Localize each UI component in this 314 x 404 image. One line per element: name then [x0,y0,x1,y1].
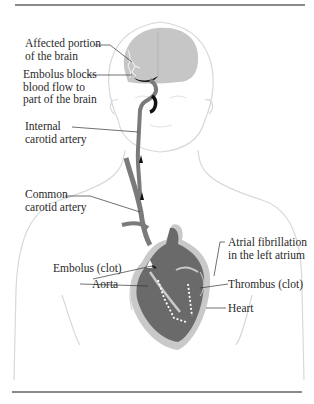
label-atrial-fibrillation: Atrial fibrillation in the left atrium [228,236,307,261]
label-embolus-blocks: Embolus blocks blood flow to part of the… [23,68,97,106]
label-thrombus: Thrombus (clot) [228,278,303,291]
label-internal-carotid: Internal carotid artery [25,120,87,145]
label-embolus-clot: Embolus (clot) [53,262,122,275]
heart [130,224,210,350]
label-affected-brain: Affected portion of the brain [25,37,101,62]
label-aorta: Aorta [92,278,118,291]
bottom-rule [12,391,302,393]
label-common-carotid: Common carotid artery [25,188,87,213]
label-heart: Heart [228,302,254,315]
